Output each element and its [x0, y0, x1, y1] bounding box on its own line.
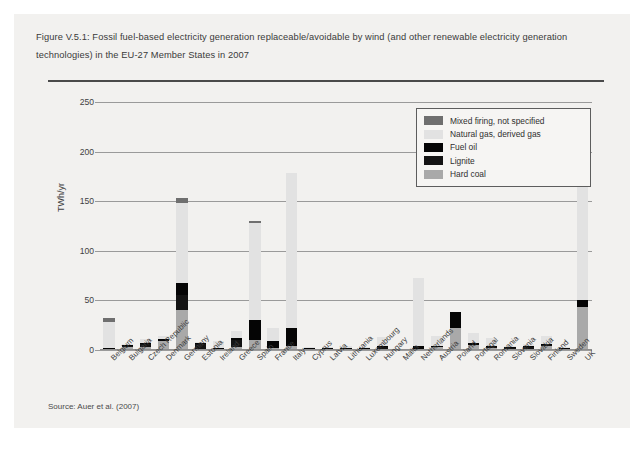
bar-slot [300, 102, 318, 350]
x-tick-label-italy: Italy [291, 356, 297, 362]
y-tick-label: 200 [80, 147, 94, 157]
x-tick-slot: UK [574, 354, 592, 444]
x-tick-label-ireland: Ireland [218, 356, 224, 362]
stacked-bar[interactable] [413, 278, 424, 350]
x-tick-slot: Slovenia [501, 354, 519, 444]
x-tick-label-france: France [273, 356, 279, 362]
legend-item: Lignite [424, 154, 584, 167]
bar-slot [209, 102, 227, 350]
x-tick-label-bulgaria: Bulgaria [127, 356, 133, 362]
x-tick-slot: Italy [282, 354, 300, 444]
bar-slot [355, 102, 373, 350]
bar-segment [413, 278, 424, 346]
x-tick-label-denmark: Denmark [164, 356, 170, 362]
bar-slot [264, 102, 282, 350]
x-tick-label-poland: Poland [455, 356, 461, 362]
x-tick-slot: Spain [246, 354, 264, 444]
x-tick-label-lithuania: Lithuania [346, 356, 352, 362]
x-tick-slot: Sweden [555, 354, 573, 444]
x-tick-slot: Finland [537, 354, 555, 444]
legend-label: Mixed firing, not specified [450, 116, 545, 126]
legend-item: Hard coal [424, 168, 584, 181]
bar-segment [577, 300, 588, 307]
legend-label: Lignite [450, 156, 475, 166]
bar-slot [373, 102, 391, 350]
legend-swatch-gas [424, 130, 443, 139]
x-tick-label-austria: Austria [437, 356, 443, 362]
x-tick-slot: France [264, 354, 282, 444]
x-tick-slot: Austria [428, 354, 446, 444]
y-tick-label: 50 [84, 295, 94, 305]
x-tick-label-portugal: Portugal [473, 356, 479, 362]
x-tick-slot: Hungary [373, 354, 391, 444]
x-tick-slot: Belgium [100, 354, 118, 444]
figure-caption: Figure V.5.1: Fossil fuel-based electric… [36, 28, 604, 64]
bar-segment [103, 322, 114, 348]
x-tick-label-estonia: Estonia [200, 356, 206, 362]
x-tick-label-uk: UK [583, 356, 589, 362]
x-tick-slot: Czech Republic [136, 354, 154, 444]
legend-label: Natural gas, derived gas [450, 129, 541, 139]
legend-item: Mixed firing, not specified [424, 114, 584, 127]
legend-item: Natural gas, derived gas [424, 127, 584, 140]
legend-swatch-fueloil [424, 143, 443, 152]
x-tick-slot: Malta [392, 354, 410, 444]
x-tick-label-romania: Romania [492, 356, 498, 362]
x-tick-label-netherlands: Netherlands [419, 356, 425, 362]
y-tick-label: 150 [80, 196, 94, 206]
bar-segment [176, 295, 187, 310]
bar-slot [246, 102, 264, 350]
x-tick-label-hungary: Hungary [382, 356, 388, 362]
bar-slot [319, 102, 337, 350]
x-tick-label-belgium: Belgium [109, 356, 115, 362]
y-tick-label: 250 [80, 97, 94, 107]
x-tick-slot: Lithuania [337, 354, 355, 444]
y-axis-label: TWh/yr [56, 183, 66, 212]
x-tick-slot: Greece [228, 354, 246, 444]
y-tick-label: 0 [89, 345, 94, 355]
chart-legend: Mixed firing, not specifiedNatural gas, … [416, 108, 591, 187]
y-tick-mark [95, 350, 100, 351]
x-tick-slot: Netherlands [410, 354, 428, 444]
x-tick-slot: Poland [446, 354, 464, 444]
bar-slot [282, 102, 300, 350]
x-tick-label-spain: Spain [255, 356, 261, 362]
source-note: Source: Auer et al. (2007) [48, 402, 139, 411]
legend-label: Hard coal [450, 169, 486, 179]
bar-segment [286, 173, 297, 328]
legend-swatch-lignite [424, 156, 443, 165]
x-tick-slot: Bulgaria [118, 354, 136, 444]
bar-segment [267, 328, 278, 341]
chart-plot-area: TWh/yr 050100150200250 BelgiumBulgariaCz… [48, 92, 604, 392]
bar-segment [450, 312, 461, 328]
x-tick-label-germany: Germany [182, 356, 188, 362]
x-tick-slot: Luxembourg [355, 354, 373, 444]
bar-slot [155, 102, 173, 350]
x-tick-slot: Latvia [319, 354, 337, 444]
bar-slot [191, 102, 209, 350]
x-tick-slot: Ireland [209, 354, 227, 444]
bar-slot [173, 102, 191, 350]
x-tick-slot: Estonia [191, 354, 209, 444]
x-tick-slot: Germany [173, 354, 191, 444]
x-tick-slot: Denmark [155, 354, 173, 444]
bar-slot [118, 102, 136, 350]
x-tick-label-cyprus: Cyprus [310, 356, 316, 362]
x-tick-label-slovenia: Slovenia [510, 356, 516, 362]
x-tick-slot: Cyprus [300, 354, 318, 444]
legend-swatch-mixed [424, 116, 443, 125]
stacked-bar[interactable] [103, 318, 114, 350]
legend-label: Fuel oil [450, 142, 477, 152]
x-tick-label-malta: Malta [401, 356, 407, 362]
x-tick-label-slovakia: Slovakia [528, 356, 534, 362]
bar-slot [392, 102, 410, 350]
x-axis-tick-labels: BelgiumBulgariaCzech RepublicDenmarkGerm… [100, 354, 592, 444]
x-tick-label-czech-republic: Czech Republic [146, 356, 152, 362]
bar-slot [136, 102, 154, 350]
stacked-bar[interactable] [286, 173, 297, 350]
x-tick-label-sweden: Sweden [565, 356, 571, 362]
x-tick-label-latvia: Latvia [328, 356, 334, 362]
bar-segment [249, 223, 260, 320]
stacked-bar[interactable] [249, 221, 260, 350]
bar-slot [100, 102, 118, 350]
